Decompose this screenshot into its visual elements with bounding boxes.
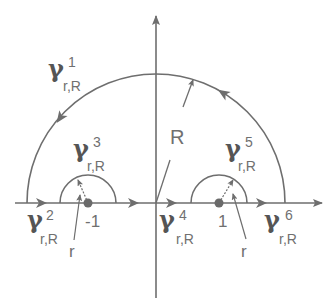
r-left-pointer — [74, 195, 80, 240]
svg-text:5: 5 — [245, 134, 253, 150]
label-gamma3: γ 3 r,R — [73, 134, 105, 174]
label-point-one: 1 — [218, 212, 227, 231]
label-gamma5: γ 5 r,R — [225, 134, 256, 174]
svg-text:γ: γ — [48, 54, 64, 83]
svg-text:γ: γ — [27, 205, 43, 234]
svg-text:1: 1 — [68, 54, 76, 70]
contour-diagram: R r r -1 1 γ 1 r,R γ 2 r,R γ 3 r,R γ 4 r… — [0, 0, 334, 303]
svg-text:4: 4 — [179, 207, 187, 223]
label-gamma1: γ 1 r,R — [48, 54, 81, 94]
svg-text:3: 3 — [93, 134, 101, 150]
svg-text:6: 6 — [285, 207, 293, 223]
arrow-gamma1-right-icon — [215, 86, 230, 101]
label-r-left: r — [69, 242, 75, 261]
svg-text:r,R: r,R — [40, 231, 58, 247]
point-minus-one — [84, 199, 93, 208]
r-right-pointer — [233, 194, 246, 239]
label-R: R — [170, 126, 184, 148]
svg-text:γ: γ — [159, 205, 175, 234]
svg-text:γ: γ — [264, 205, 280, 234]
label-point-minus-one: -1 — [85, 212, 100, 231]
point-one — [215, 199, 224, 208]
radius-R-line-upper — [183, 80, 193, 107]
svg-text:r,R: r,R — [87, 158, 105, 174]
label-r-right: r — [241, 242, 247, 261]
svg-text:r,R: r,R — [63, 78, 81, 94]
label-gamma6: γ 6 r,R — [264, 205, 297, 247]
radius-R-line-lower — [156, 160, 170, 203]
svg-text:2: 2 — [46, 207, 54, 223]
label-gamma4: γ 4 r,R — [159, 205, 194, 247]
svg-text:r,R: r,R — [279, 231, 297, 247]
svg-text:r,R: r,R — [238, 158, 256, 174]
svg-text:r,R: r,R — [176, 231, 194, 247]
label-gamma2: γ 2 r,R — [27, 205, 58, 247]
